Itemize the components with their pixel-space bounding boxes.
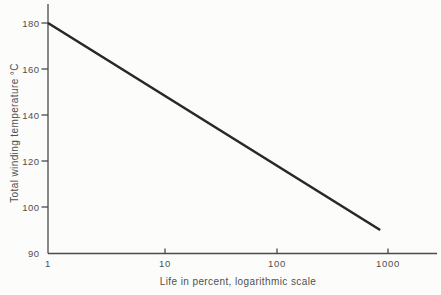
x-tick-label: 10 (159, 258, 171, 269)
x-axis-title: Life in percent, logarithmic scale (160, 276, 316, 287)
x-tick-label: 100 (268, 258, 286, 269)
y-tick-label: 180 (22, 18, 39, 29)
x-tick-label: 1000 (376, 258, 400, 269)
y-tick-label: 120 (22, 156, 39, 167)
x-tick-label: 1 (45, 258, 51, 269)
y-tick-label: 140 (22, 110, 39, 121)
semilog-life-temperature-chart: 180160140120100901101001000 Total windin… (0, 0, 441, 295)
y-tick-label: 100 (22, 202, 39, 213)
plot-area: 180160140120100901101001000 (0, 0, 441, 295)
y-tick-label: 160 (22, 64, 39, 75)
y-tick-label: 90 (28, 248, 40, 259)
y-axis-title: Total winding temperature °C (9, 63, 20, 203)
data-line (48, 23, 380, 230)
